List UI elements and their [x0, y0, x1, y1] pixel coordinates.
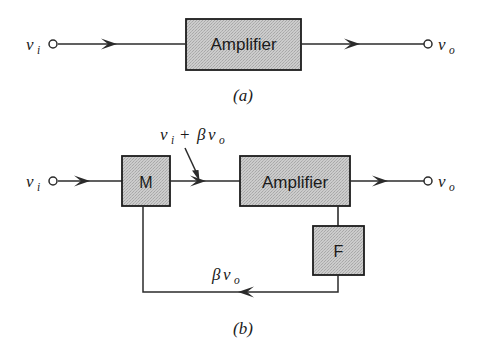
panel-a-input-label-symbol: v [26, 35, 34, 54]
panel-b-group: M Amplifier F v i v o [26, 125, 455, 338]
sum-annotation-beta: β [196, 125, 206, 144]
panel-a-input-terminal [49, 40, 57, 48]
panel-a-output-label-symbol: v [438, 35, 446, 54]
sum-annotation-vi-subscript: i [171, 134, 174, 146]
block-diagram-figure: Amplifier v i v o (a) M [0, 0, 495, 358]
diagram-canvas: Amplifier v i v o (a) M [0, 0, 495, 358]
panel-b-feedback-annotation: β v o [211, 265, 240, 286]
panel-b-output-label-symbol: v [438, 172, 446, 191]
sum-annotation-operator: + [180, 125, 190, 144]
panel-b-feedback-wire [143, 206, 338, 292]
sum-annotation-vo-symbol: v [208, 125, 216, 144]
panel-b-input-label-subscript: i [37, 181, 40, 193]
panel-b-mixer-label: M [139, 174, 152, 191]
panel-b-output-terminal [424, 177, 432, 185]
sum-annotation-vo-subscript: o [219, 134, 225, 146]
panel-a-output-label-subscript: o [449, 44, 455, 56]
feedback-annotation-beta: β [211, 265, 221, 284]
panel-a-input-label-subscript: i [37, 44, 40, 56]
sum-annotation-vi-symbol: v [160, 125, 168, 144]
panel-a-output-terminal [424, 40, 432, 48]
panel-b-input-label-symbol: v [26, 172, 34, 191]
feedback-annotation-symbol: v [223, 265, 231, 284]
panel-b-output-label-subscript: o [449, 181, 455, 193]
panel-b-feedback-label: F [334, 243, 344, 260]
panel-b-amplifier-label: Amplifier [262, 173, 328, 192]
feedback-annotation-subscript: o [234, 274, 240, 286]
panel-b-caption: (b) [233, 319, 253, 338]
panel-a-amplifier-label: Amplifier [210, 35, 276, 54]
panel-b-input-terminal [49, 177, 57, 185]
panel-a-caption: (a) [233, 86, 253, 105]
panel-a-group: Amplifier v i v o (a) [26, 19, 455, 105]
